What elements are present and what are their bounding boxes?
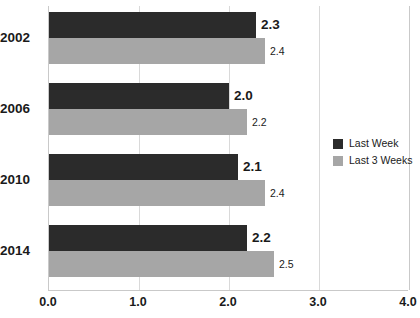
legend-swatch-icon (333, 139, 343, 149)
bar-value-label: 2.4 (270, 188, 285, 199)
bar-row: 2.4 (49, 38, 408, 64)
bar-value-label: 2.5 (279, 259, 294, 270)
bar-row: 2.5 (49, 251, 408, 277)
x-tick-label-1.0: 1.0 (129, 296, 146, 309)
x-tick-label-0.0: 0.0 (39, 296, 56, 309)
bar-2002-last-3-weeks (49, 38, 265, 64)
legend-swatch-icon (333, 156, 343, 166)
bar-value-label: 2.0 (234, 89, 253, 103)
bar-2010-last-3-weeks (49, 180, 265, 206)
bar-chart: 2.32.42.02.22.12.42.22.5 200220062010201… (0, 0, 420, 318)
bar-group-2006: 2.02.2 (49, 83, 408, 135)
bar-value-label: 2.1 (243, 160, 262, 174)
category-label-2010: 2010 (0, 173, 42, 187)
bar-row: 2.0 (49, 83, 408, 109)
category-label-2002: 2002 (0, 31, 42, 45)
bar-row: 2.3 (49, 12, 408, 38)
category-label-2006: 2006 (0, 102, 42, 116)
bar-value-label: 2.2 (252, 231, 271, 245)
x-tick-label-2.0: 2.0 (219, 296, 236, 309)
bar-2002-last-week (49, 12, 256, 38)
legend-entry-last-week[interactable]: Last Week (333, 136, 412, 151)
legend: Last WeekLast 3 Weeks (333, 136, 412, 170)
bar-2014-last-3-weeks (49, 251, 274, 277)
x-tick-label-3.0: 3.0 (309, 296, 326, 309)
legend-label: Last 3 Weeks (349, 155, 412, 166)
category-label-2014: 2014 (0, 244, 42, 258)
bar-group-2002: 2.32.4 (49, 12, 408, 64)
bar-2010-last-week (49, 154, 238, 180)
legend-entry-last-3-weeks[interactable]: Last 3 Weeks (333, 153, 412, 168)
bar-value-label: 2.3 (261, 18, 280, 32)
bar-group-2014: 2.22.5 (49, 225, 408, 277)
x-tick-label-4.0: 4.0 (399, 296, 416, 309)
bar-2006-last-week (49, 83, 229, 109)
bar-row: 2.2 (49, 109, 408, 135)
bar-value-label: 2.2 (252, 117, 267, 128)
bar-row: 2.4 (49, 180, 408, 206)
legend-label: Last Week (349, 138, 398, 149)
bar-2014-last-week (49, 225, 247, 251)
bar-2006-last-3-weeks (49, 109, 247, 135)
bar-row: 2.2 (49, 225, 408, 251)
bar-value-label: 2.4 (270, 46, 285, 57)
